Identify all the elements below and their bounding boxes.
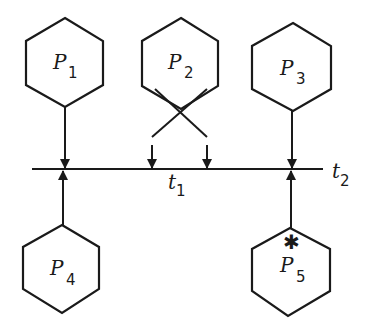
svg-text:1: 1 — [176, 182, 186, 200]
svg-text:P: P — [52, 50, 67, 74]
label-t1: t 1 — [168, 170, 186, 200]
svg-text:1: 1 — [68, 64, 78, 82]
diagram-canvas: P 1 P 2 P 3 P 4 ✱ P 5 t 1 t 2 — [0, 0, 370, 332]
svg-text:5: 5 — [296, 268, 306, 286]
svg-text:P: P — [279, 56, 294, 80]
svg-text:P: P — [49, 256, 64, 280]
svg-text:4: 4 — [66, 271, 76, 289]
svg-text:2: 2 — [340, 172, 350, 190]
place-p3: P 3 — [252, 23, 331, 111]
place-p4: P 4 — [23, 225, 99, 313]
svg-text:P: P — [279, 253, 294, 277]
place-p5: ✱ P 5 — [252, 228, 330, 316]
token-marker-icon: ✱ — [283, 230, 300, 254]
svg-text:3: 3 — [296, 70, 306, 88]
label-t2: t 2 — [332, 159, 350, 190]
svg-text:2: 2 — [184, 64, 194, 82]
place-p2: P 2 — [142, 18, 218, 109]
svg-text:P: P — [167, 50, 182, 74]
place-p1: P 1 — [26, 18, 103, 107]
